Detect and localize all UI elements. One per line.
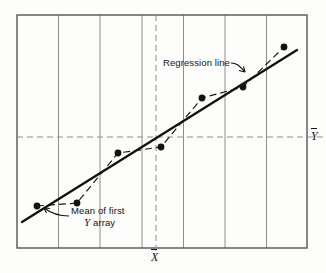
mean-label-line2-rest: array bbox=[90, 217, 115, 228]
y-mean-axis-label: Y bbox=[311, 129, 318, 144]
data-point bbox=[158, 144, 165, 151]
y-mean-glyph: Y bbox=[311, 129, 318, 143]
mean-label-line1: Mean of first bbox=[71, 205, 125, 216]
plot-background bbox=[17, 15, 307, 248]
mean-of-first-array-label: Mean of first Y array bbox=[71, 205, 125, 228]
data-point bbox=[115, 150, 122, 157]
x-mean-glyph: X bbox=[151, 250, 158, 264]
regression-figure: Regression line Mean of first Y array Y … bbox=[0, 0, 326, 273]
data-point bbox=[240, 84, 247, 91]
data-point bbox=[34, 203, 41, 210]
x-mean-axis-label: X bbox=[151, 250, 158, 265]
x-overbar bbox=[151, 249, 157, 250]
data-point bbox=[281, 44, 288, 51]
data-point bbox=[199, 95, 206, 102]
y-overbar bbox=[311, 128, 317, 129]
mean-label-line2: Y array bbox=[71, 217, 125, 229]
plot-canvas bbox=[0, 0, 326, 273]
regression-line-label: Regression line bbox=[163, 57, 230, 68]
